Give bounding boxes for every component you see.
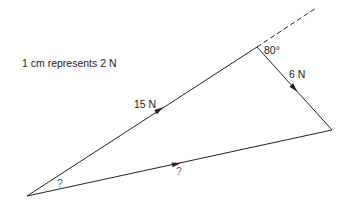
force-6n-label: 6 N	[289, 69, 305, 80]
scale-note: 1 cm represents 2 N	[22, 58, 117, 69]
extension-dashed-line	[257, 8, 316, 47]
force-15n-line	[27, 47, 257, 196]
resultant-label: ?	[176, 166, 182, 177]
force-15n-label: 15 N	[134, 99, 156, 110]
angle-80-label: 80°	[264, 45, 280, 56]
angle-unknown-label: ?	[57, 178, 63, 189]
